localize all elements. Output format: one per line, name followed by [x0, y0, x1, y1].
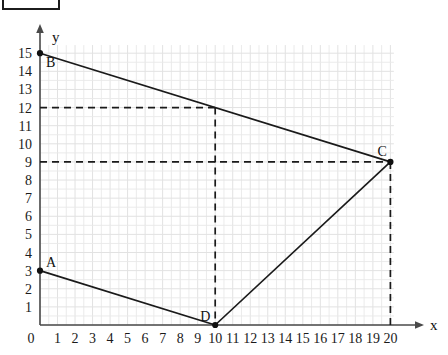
point-label-D: D	[200, 309, 210, 324]
x-tick-label-11: 11	[226, 331, 239, 346]
y-tick-label-3: 3	[25, 264, 32, 279]
x-tick-label-14: 14	[278, 331, 292, 346]
coordinate-plot: 0123456789101112131415161718192012345678…	[0, 0, 448, 355]
x-tick-label-3: 3	[89, 331, 96, 346]
x-tick-label-8: 8	[177, 331, 184, 346]
y-tick-label-14: 14	[18, 64, 32, 79]
x-tick-label-16: 16	[313, 331, 327, 346]
x-tick-label-7: 7	[159, 331, 166, 346]
x-tick-label-10: 10	[208, 331, 222, 346]
y-tick-label-6: 6	[25, 209, 32, 224]
x-tick-label-1: 1	[54, 331, 61, 346]
figure-canvas: 0123456789101112131415161718192012345678…	[0, 0, 448, 355]
point-labels-layer: ABCD	[46, 55, 387, 324]
y-tick-label-2: 2	[25, 282, 32, 297]
y-tick-label-1: 1	[25, 300, 32, 315]
point-marker-A	[37, 268, 43, 274]
x-tick-label-12: 12	[243, 331, 257, 346]
x-tick-label-19: 19	[366, 331, 380, 346]
point-label-B: B	[46, 55, 55, 70]
x-tick-label-5: 5	[124, 331, 131, 346]
x-tick-label-origin: 0	[28, 331, 35, 346]
y-tick-label-13: 13	[18, 82, 32, 97]
y-tick-label-4: 4	[25, 246, 32, 261]
x-tick-label-6: 6	[142, 331, 149, 346]
x-tick-label-18: 18	[348, 331, 362, 346]
y-tick-label-9: 9	[25, 155, 32, 170]
x-tick-label-15: 15	[296, 331, 310, 346]
y-tick-label-7: 7	[25, 191, 32, 206]
point-label-C: C	[377, 144, 386, 159]
y-tick-label-5: 5	[25, 227, 32, 242]
x-tick-label-13: 13	[261, 331, 275, 346]
y-tick-label-10: 10	[18, 137, 32, 152]
x-tick-label-20: 20	[383, 331, 397, 346]
point-marker-B	[37, 50, 43, 56]
y-tick-label-11: 11	[19, 119, 32, 134]
y-tick-label-12: 12	[18, 101, 32, 116]
x-axis-label: x	[430, 317, 438, 333]
y-tick-label-15: 15	[18, 46, 32, 61]
y-tick-label-8: 8	[25, 173, 32, 188]
x-tick-label-9: 9	[194, 331, 201, 346]
point-marker-C	[387, 159, 393, 165]
point-marker-D	[212, 322, 218, 328]
grid-layer	[40, 45, 394, 325]
x-tick-label-2: 2	[72, 331, 79, 346]
point-label-A: A	[46, 255, 57, 270]
x-tick-label-17: 17	[331, 331, 345, 346]
y-axis-label: y	[52, 29, 60, 45]
x-tick-label-4: 4	[107, 331, 114, 346]
